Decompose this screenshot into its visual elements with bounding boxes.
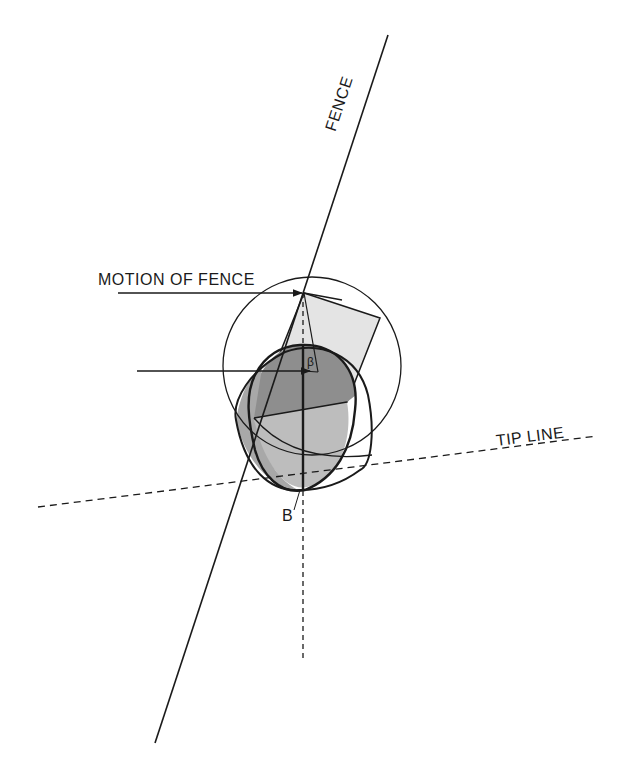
diagram-canvas: MOTION OF FENCE FENCE TIP LINE B β xyxy=(0,0,624,767)
angle-beta-label: β xyxy=(307,355,314,369)
diagram-svg xyxy=(0,0,624,767)
motion-of-fence-label: MOTION OF FENCE xyxy=(98,271,255,289)
point-b-label: B xyxy=(282,507,293,525)
b-pointer xyxy=(294,490,300,510)
